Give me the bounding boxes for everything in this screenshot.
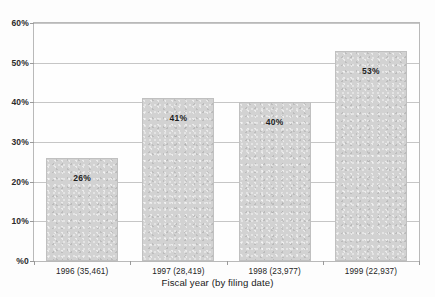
plot-area: %010%20%30%40%50%60% 26%41%40%53% 1996 (… <box>33 22 420 262</box>
y-tick-label: 10% <box>11 216 29 226</box>
y-tick-label: 40% <box>11 97 29 107</box>
chart-title-sliver <box>0 0 435 9</box>
bar-chart: %010%20%30%40%50%60% 26%41%40%53% 1996 (… <box>0 0 435 297</box>
x-category-label: 1996 (35,461) <box>56 267 108 276</box>
x-category-label: 1997 (28,419) <box>152 267 204 276</box>
bar: 53% <box>335 51 407 261</box>
bar: 26% <box>46 158 118 261</box>
x-tick-mark <box>130 261 131 265</box>
bar-value-label: 41% <box>143 113 213 123</box>
gridline <box>34 23 419 24</box>
bar: 40% <box>239 102 311 261</box>
y-tick-mark <box>30 182 34 183</box>
bar-value-label: 26% <box>47 173 117 183</box>
x-category-label: 1998 (23,977) <box>248 267 300 276</box>
y-tick-mark <box>30 142 34 143</box>
bar-value-label: 53% <box>336 66 406 76</box>
x-tick-mark <box>227 261 228 265</box>
y-tick-mark <box>30 102 34 103</box>
y-tick-label: 60% <box>11 18 29 28</box>
y-tick-label: %0 <box>16 256 29 266</box>
x-tick-mark <box>323 261 324 265</box>
x-category-label: 1999 (22,937) <box>345 267 397 276</box>
x-axis-title: Fiscal year (by filing date) <box>0 277 435 288</box>
y-tick-label: 50% <box>11 58 29 68</box>
y-tick-label: 20% <box>11 177 29 187</box>
y-tick-mark <box>30 23 34 24</box>
x-tick-mark <box>34 261 35 265</box>
x-tick-mark <box>419 261 420 265</box>
bar: 41% <box>142 98 214 261</box>
bar-value-label: 40% <box>240 117 310 127</box>
y-tick-mark <box>30 221 34 222</box>
y-tick-mark <box>30 63 34 64</box>
y-tick-label: 30% <box>11 137 29 147</box>
